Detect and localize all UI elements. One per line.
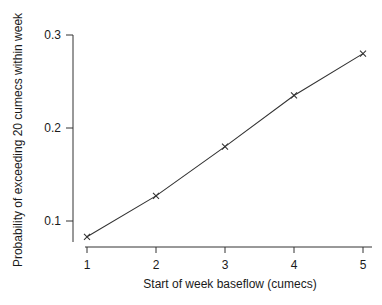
x-axis: 12345 [84,247,372,272]
y-tick-label: 0.1 [44,214,61,228]
series-line [87,54,363,237]
x-tick-label: 3 [222,258,229,272]
x-tick-label: 4 [291,258,298,272]
x-marker-icon [222,144,228,150]
x-tick-label: 5 [360,258,367,272]
x-axis-label: Start of week baseflow (cumecs) [143,277,316,291]
y-tick-label: 0.3 [44,28,61,42]
x-marker-icon [360,51,366,57]
line-chart: 0.10.20.3 12345 Start of week baseflow (… [0,0,382,305]
y-axis-label: Probability of exceeding 20 cumecs withi… [11,12,25,267]
x-marker-icon [291,92,297,98]
x-marker-icon [84,234,90,240]
x-tick-label: 2 [153,258,160,272]
y-axis: 0.10.20.3 [44,28,73,242]
x-marker-icon [153,193,159,199]
data-series [84,51,366,240]
x-tick-label: 1 [84,258,91,272]
y-tick-label: 0.2 [44,121,61,135]
